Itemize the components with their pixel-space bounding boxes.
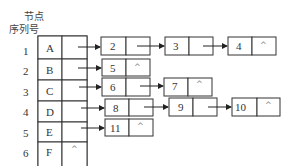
- null-pointer-icon: ^: [196, 80, 203, 89]
- null-pointer-icon: ^: [71, 145, 78, 154]
- null-pointer-icon: ^: [134, 63, 141, 72]
- header-line1: 节点: [24, 11, 44, 22]
- row-index: 1: [23, 45, 29, 57]
- list-node-value: 8: [113, 102, 119, 114]
- adjacency-list-row-1: 2 3 4 ^: [78, 37, 276, 55]
- row-index: 3: [23, 86, 29, 98]
- row-index: 2: [23, 65, 29, 77]
- head-node-label: A: [46, 42, 54, 54]
- adjacency-list-diagram: 节点 序列号 1 2 3 4 5 6 A B C D E F ^ 2 3: [0, 0, 289, 166]
- adjacency-list-row-4: 8 9 10 ^: [81, 98, 280, 116]
- head-node-label: E: [46, 126, 53, 138]
- list-node-value: 4: [236, 40, 242, 52]
- null-pointer-icon: ^: [260, 41, 267, 50]
- row-indices: 1 2 3 4 5 6: [23, 45, 29, 159]
- list-node-value: 11: [110, 122, 121, 134]
- row-index: 5: [23, 127, 29, 139]
- head-node-label: C: [46, 85, 53, 97]
- head-node-label: F: [46, 146, 52, 158]
- list-node-value: 7: [172, 80, 178, 92]
- list-node-value: 10: [235, 101, 247, 113]
- list-node-value: 3: [173, 40, 179, 52]
- list-node-value: 6: [110, 81, 116, 93]
- null-pointer-icon: ^: [137, 122, 144, 131]
- list-node-value: 9: [178, 101, 184, 113]
- adjacency-list-row-5: 11 ^: [81, 119, 153, 136]
- row-index: 4: [23, 106, 29, 118]
- head-node-label: D: [46, 106, 54, 118]
- list-node-value: 5: [110, 62, 116, 74]
- adjacency-list-row-2: 5 ^: [78, 59, 150, 76]
- head-node-label: B: [46, 64, 53, 76]
- row-index: 6: [23, 147, 29, 159]
- list-node-value: 2: [110, 40, 116, 52]
- adjacency-list-row-3: 6 7 ^: [79, 78, 212, 96]
- null-pointer-icon: ^: [265, 101, 272, 110]
- header-line2: 序列号: [9, 23, 39, 35]
